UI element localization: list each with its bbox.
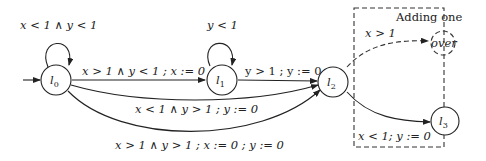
edge-l1-self — [208, 43, 233, 66]
node-l2: l2 — [318, 67, 348, 97]
edge-label-l2-over: x > 1 — [365, 26, 396, 40]
node-l3: l3 — [431, 107, 459, 135]
node-l0: l0 — [41, 65, 71, 95]
edge-l2-l3 — [347, 92, 430, 122]
svg-text:over: over — [431, 36, 458, 50]
edge-label-l0-l2-mid: x < 1 ∧ y > 1 ; y := 0 — [135, 102, 258, 116]
edge-label-l0-self: x < 1 ∧ y < 1 — [20, 18, 97, 32]
edge-label-l1-self: y < 1 — [206, 18, 238, 32]
node-over: over — [431, 31, 458, 55]
edge-l1-l2 — [238, 80, 317, 81]
edge-l0-self — [46, 43, 70, 67]
automaton-diagram: Adding one x < 1 ∧ y < 1 y < 1 x > 1 ∧ y… — [0, 0, 486, 161]
edge-label-l0-l2-low: x > 1 ∧ y > 1 ; x := 0 ; y := 0 — [115, 138, 284, 152]
edge-label-l2-l3: x < 1; y := 0 — [358, 129, 431, 143]
edge-label-l1-l2: y > 1 ; y := 0 — [244, 64, 322, 78]
edge-label-l0-l1: x > 1 ∧ y < 1 ; x := 0 — [82, 64, 205, 78]
edge-l0-l2-mid — [71, 85, 318, 100]
box-title: Adding one — [395, 10, 462, 24]
edge-l2-over — [347, 41, 428, 67]
node-l1: l1 — [207, 65, 237, 95]
